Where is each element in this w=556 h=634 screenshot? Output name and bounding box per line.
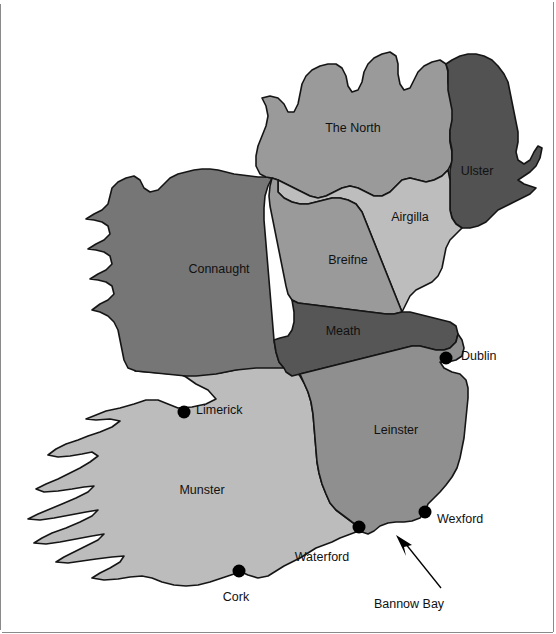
region-label-ulster: Ulster bbox=[461, 164, 494, 178]
map-canvas: The North Ulster Airgilla Connaught Brei… bbox=[0, 0, 556, 634]
region-label-munster: Munster bbox=[179, 483, 224, 497]
city-dot-icon bbox=[419, 506, 432, 519]
city-label-limerick: Limerick bbox=[196, 403, 243, 417]
city-dot-icon bbox=[353, 521, 366, 534]
city-label-wexford: Wexford bbox=[437, 512, 483, 526]
region-label-connaught: Connaught bbox=[188, 262, 250, 276]
arrow-head-icon bbox=[396, 535, 412, 556]
city-dot-icon bbox=[178, 406, 191, 419]
region-label-airgilla: Airgilla bbox=[391, 210, 429, 224]
region-label-leinster: Leinster bbox=[374, 423, 418, 437]
city-marker-wexford[interactable]: Wexford bbox=[419, 506, 484, 527]
region-ulster[interactable] bbox=[446, 54, 542, 228]
city-label-dublin: Dublin bbox=[461, 349, 496, 363]
city-label-waterford: Waterford bbox=[295, 550, 349, 564]
annotation-bannow-bay: Bannow Bay bbox=[374, 535, 445, 611]
city-marker-limerick[interactable]: Limerick bbox=[178, 403, 244, 418]
region-label-the-north: The North bbox=[325, 121, 381, 135]
region-label-breifne: Breifne bbox=[328, 253, 368, 267]
annotation-label-bannow-bay: Bannow Bay bbox=[374, 597, 445, 611]
city-dot-icon bbox=[233, 565, 246, 578]
region-connaught[interactable] bbox=[86, 169, 284, 376]
city-dot-icon bbox=[440, 352, 453, 365]
region-label-meath: Meath bbox=[326, 324, 361, 338]
city-label-cork: Cork bbox=[223, 590, 250, 604]
ireland-map-figure: The North Ulster Airgilla Connaught Brei… bbox=[0, 0, 556, 634]
annotation-leader-line bbox=[405, 543, 441, 588]
